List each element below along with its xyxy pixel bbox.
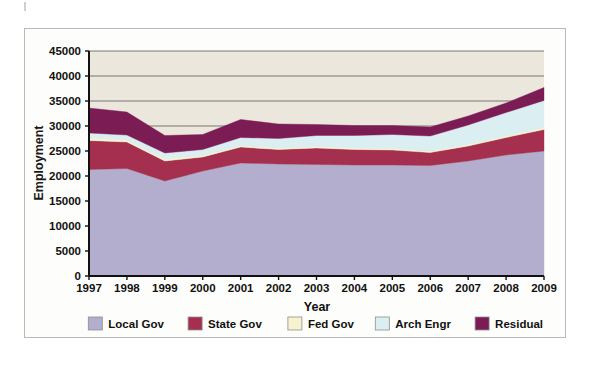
chart-canvas: 0500010000150002000025000300003500040000… [25, 29, 567, 339]
x-axis-ticks: 1997199819992000200120022003200420052006… [76, 276, 557, 294]
scan-artifact [24, 2, 26, 11]
figure-frame: 0500010000150002000025000300003500040000… [24, 28, 566, 338]
stacked-area-chart: 0500010000150002000025000300003500040000… [25, 29, 567, 339]
x-tick-label: 2008 [493, 282, 519, 294]
y-tick-label: 25000 [49, 145, 81, 157]
chart-legend: Local GovState GovFed GovArch EngrResidu… [88, 317, 543, 330]
x-tick-label: 1997 [76, 282, 102, 294]
y-tick-label: 35000 [49, 95, 81, 107]
legend-swatch [288, 317, 302, 330]
y-tick-label: 0 [75, 270, 81, 282]
y-tick-label: 20000 [49, 170, 81, 182]
y-axis-title: Employment [32, 125, 46, 201]
x-tick-label: 2007 [455, 282, 481, 294]
x-tick-label: 2004 [342, 282, 368, 294]
y-tick-label: 15000 [49, 195, 81, 207]
y-tick-label: 40000 [49, 70, 81, 82]
x-tick-label: 2003 [304, 282, 330, 294]
legend-swatch [188, 317, 202, 330]
y-tick-label: 10000 [49, 220, 81, 232]
x-tick-label: 1999 [152, 282, 178, 294]
x-tick-label: 2009 [531, 282, 557, 294]
y-tick-label: 5000 [55, 245, 81, 257]
legend-swatch [375, 317, 389, 330]
y-tick-label: 45000 [49, 45, 81, 57]
legend-label: State Gov [208, 318, 262, 330]
legend-label: Local Gov [108, 318, 164, 330]
legend-swatch [475, 317, 489, 330]
legend-label: Residual [495, 318, 543, 330]
y-tick-label: 30000 [49, 120, 81, 132]
x-tick-label: 2005 [380, 282, 406, 294]
x-tick-label: 2002 [266, 282, 292, 294]
x-axis-title: Year [304, 300, 331, 314]
legend-label: Fed Gov [308, 318, 355, 330]
legend-swatch [88, 317, 102, 330]
x-tick-label: 2000 [190, 282, 216, 294]
y-axis-ticks: 0500010000150002000025000300003500040000… [49, 45, 89, 282]
x-tick-label: 2006 [417, 282, 443, 294]
x-tick-label: 2001 [228, 282, 254, 294]
x-tick-label: 1998 [114, 282, 140, 294]
legend-label: Arch Engr [395, 318, 451, 330]
